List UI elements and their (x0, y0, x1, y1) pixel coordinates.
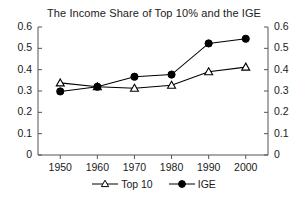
series-line-top-10 (60, 67, 245, 88)
y-axis-right-tick-label: 0 (274, 148, 304, 160)
data-point-ige-2000 (242, 35, 249, 42)
data-point-ige-1990 (205, 40, 212, 47)
y-axis-left-tick-label: 0.5 (4, 41, 32, 53)
chart-legend: Top 10 IGE (0, 178, 308, 190)
x-axis-tick-label: 2000 (226, 161, 266, 173)
x-axis-tick-label: 1980 (152, 161, 192, 173)
x-axis-tick-label: 1950 (40, 161, 80, 173)
data-point-ige-1950 (57, 88, 64, 95)
x-axis-tick-label: 1970 (114, 161, 154, 173)
y-axis-left-tick-label: 0.1 (4, 127, 32, 139)
filled-circle-marker-icon (169, 178, 195, 190)
y-axis-left-tick-label: 0.2 (4, 105, 32, 117)
y-axis-right-tick-label: 0.5 (274, 41, 304, 53)
data-point-top-10-2000 (242, 63, 250, 70)
y-axis-left-tick-label: 0.6 (4, 20, 32, 32)
legend-label-top10: Top 10 (121, 178, 153, 190)
y-axis-right-tick-label: 0.6 (274, 20, 304, 32)
legend-item-ige[interactable]: IGE (169, 178, 216, 190)
chart-container: The Income Share of Top 10% and the IGE … (0, 0, 308, 199)
y-axis-left-tick-label: 0 (4, 148, 32, 160)
y-axis-right-tick-label: 0.2 (274, 105, 304, 117)
y-axis-right-tick-label: 0.4 (274, 63, 304, 75)
data-point-ige-1980 (168, 71, 175, 78)
y-axis-left-tick-label: 0.3 (4, 84, 32, 96)
legend-item-top10[interactable]: Top 10 (92, 178, 153, 190)
y-axis-left-tick-label: 0.4 (4, 63, 32, 75)
data-point-ige-1970 (131, 73, 138, 80)
x-axis-tick-label: 1990 (189, 161, 229, 173)
data-point-top-10-1950 (56, 79, 64, 86)
series-line-ige (60, 39, 245, 92)
y-axis-right-tick-label: 0.1 (274, 127, 304, 139)
open-triangle-marker-icon (92, 178, 118, 190)
x-axis-tick-label: 1960 (77, 161, 117, 173)
legend-label-ige: IGE (198, 178, 216, 190)
y-axis-right-tick-label: 0.3 (274, 84, 304, 96)
data-point-ige-1960 (94, 83, 101, 90)
